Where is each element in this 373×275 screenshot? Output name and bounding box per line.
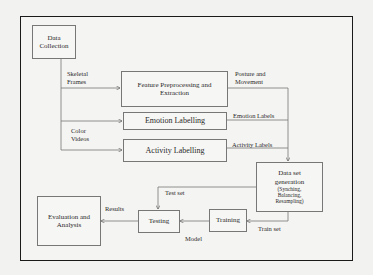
label-color-videos: Color Videos (71, 127, 89, 143)
node-feature-extraction: Feature Preprocessing and Extraction (121, 71, 228, 107)
label-emotion-labels: Emotion Labels (233, 112, 274, 120)
label-test-set: Test set (165, 189, 185, 197)
label-skeletal-line2: Frames (67, 78, 88, 86)
node-dataset-line5: Resampling) (275, 198, 303, 204)
node-dataset-line2: generation (275, 178, 305, 186)
node-feature-line2: Extraction (160, 89, 189, 97)
label-posture-line1: Posture and (235, 70, 266, 78)
label-skeletal-frames: Skeletal Frames (67, 70, 88, 86)
node-evaluation-line2: Analysis (57, 221, 82, 229)
node-testing: Testing (138, 210, 180, 233)
node-evaluation-analysis: Evaluation and Analysis (37, 196, 101, 246)
label-color-line1: Color (71, 127, 89, 135)
node-feature-line1: Feature Preprocessing and (138, 81, 212, 89)
node-emotion-text: Emotion Labelling (145, 116, 205, 125)
node-activity-labelling: Activity Labelling (123, 139, 227, 162)
label-color-line2: Videos (71, 135, 89, 143)
label-train-set: Train set (258, 225, 281, 233)
label-activity-labels: Activity Labels (232, 141, 272, 149)
node-data-collection-line1: Data (47, 34, 60, 42)
label-model: Model (185, 235, 202, 243)
node-training: Training (209, 209, 247, 232)
node-activity-text: Activity Labelling (146, 146, 205, 155)
label-posture-line2: Movement (235, 78, 266, 86)
label-skeletal-line1: Skeletal (67, 70, 88, 78)
node-emotion-labelling: Emotion Labelling (123, 112, 227, 130)
label-results: Results (105, 205, 124, 213)
node-training-text: Training (216, 216, 240, 224)
node-dataset-line1: Data set (278, 169, 301, 177)
node-testing-text: Testing (149, 217, 170, 225)
node-data-collection-line2: Collection (39, 42, 68, 50)
node-data-collection: Data Collection (32, 25, 76, 59)
node-dataset-generation: Data set generation (Synching, Balancing… (256, 162, 323, 212)
label-posture-movement: Posture and Movement (235, 70, 266, 86)
node-evaluation-line1: Evaluation and (48, 213, 90, 221)
